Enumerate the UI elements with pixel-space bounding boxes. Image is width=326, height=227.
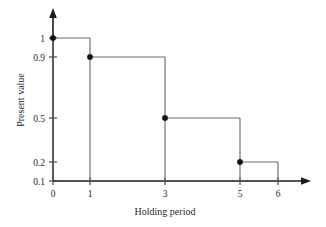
y-tick-label-0-9: 0.9 [33,53,45,63]
y-tick-label-0-1: 0.1 [33,177,45,187]
y-axis-title: Present value [15,73,26,127]
data-point-markers [50,35,242,164]
x-axis-arrow-icon [301,177,311,185]
x-tick-label-0: 0 [51,189,56,199]
data-point-0 [50,35,55,40]
y-tick-label-1: 1 [40,34,45,44]
x-tick-label-1: 1 [88,189,93,199]
step-series-present-value [53,38,278,181]
x-tick-label-3: 3 [163,189,168,199]
data-point-3 [162,115,167,120]
y-tick-label-0-2: 0.2 [33,158,45,168]
present-value-step-chart: 1 0.9 0.5 0.2 0.1 0 1 3 5 6 Holding peri… [0,0,326,227]
y-axis-arrow-icon [49,8,57,18]
chart-container: 1 0.9 0.5 0.2 0.1 0 1 3 5 6 Holding peri… [0,0,326,227]
y-tick-label-0-5: 0.5 [33,114,45,124]
x-tick-label-5: 5 [238,189,243,199]
data-point-5 [237,159,242,164]
data-point-1 [87,54,92,59]
x-axis-title: Holding period [135,206,196,217]
x-tick-label-6: 6 [276,189,281,199]
